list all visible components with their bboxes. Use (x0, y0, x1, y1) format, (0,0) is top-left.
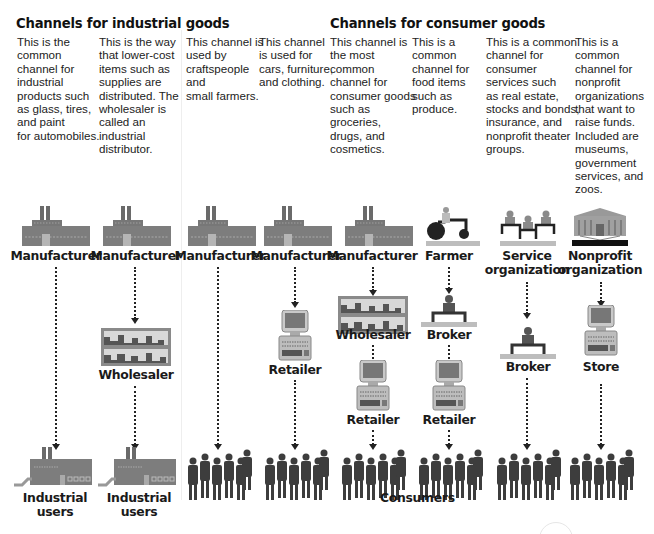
industrial-users-label: Industrial users (107, 491, 171, 519)
flow-arrow (600, 384, 602, 445)
channel-3-description: This channel is used by craftspeople and… (186, 35, 263, 102)
channel-6-description: This is a common channel for food items … (412, 35, 469, 115)
section-divider (181, 30, 182, 500)
wholesaler-label: Wholesaler (335, 328, 410, 342)
computer-icon (278, 310, 312, 362)
flow-arrow (55, 267, 57, 445)
retailer-label: Retailer (347, 413, 400, 427)
flow-arrow (294, 267, 296, 303)
factory-icon (264, 206, 332, 246)
channel-8-description: This is a common channel for nonprofit o… (575, 35, 644, 196)
consumer-section-title: Channels for consumer goods (330, 16, 545, 31)
industrial-section-title: Channels for industrial goods (16, 16, 230, 31)
consumers-crowd-icon (187, 449, 253, 501)
factory-icon (22, 206, 90, 246)
channel-4-description: This channel is used for cars, furniture… (259, 35, 333, 89)
computer-icon (356, 360, 390, 412)
consumers-crowd-icon (496, 449, 562, 501)
flow-arrow (372, 267, 374, 291)
consumers-crowd-icon (569, 449, 635, 501)
farmer-label: Farmer (425, 249, 473, 263)
consumers-label: Consumers (380, 490, 455, 505)
flow-arrow (448, 267, 450, 289)
channel-2-description: This is the way that lower-cost items su… (99, 35, 179, 156)
museum-building-icon (572, 206, 628, 246)
manufacturer-label: Manufacturer (326, 249, 417, 263)
flow-arrow (134, 386, 136, 445)
industrial-user-icon (14, 447, 94, 489)
flow-arrow (217, 267, 219, 445)
retailer-label: Retailer (269, 363, 322, 377)
flow-arrow (448, 430, 450, 445)
broker-icon (500, 326, 556, 360)
service-organization-label: Service organization (485, 249, 569, 277)
flow-arrow (600, 282, 602, 302)
faint-circle-mark (539, 522, 573, 534)
flow-arrow (294, 380, 296, 445)
farmer-tractor-icon (424, 206, 480, 246)
flow-arrow (526, 282, 528, 314)
flow-arrow (526, 378, 528, 445)
industrial-users-label: Industrial users (23, 491, 87, 519)
computer-icon (584, 305, 618, 357)
factory-icon (345, 206, 413, 246)
channel-7-description: This is a common channel for consumer se… (486, 35, 579, 156)
computer-icon (432, 360, 466, 412)
nonprofit-organization-label: Nonprofit organization (558, 249, 642, 277)
channel-5-description: This channel is the most common channel … (330, 35, 416, 156)
factory-icon (188, 206, 256, 246)
wholesaler-label: Wholesaler (98, 368, 173, 382)
broker-label: Broker (427, 328, 472, 342)
flow-arrow (134, 267, 136, 319)
industrial-user-icon (98, 447, 178, 489)
consumers-crowd-icon (264, 449, 330, 501)
flow-arrow (372, 430, 374, 445)
manufacturer-label: Manufacturer (90, 249, 181, 263)
factory-icon (103, 206, 171, 246)
broker-label: Broker (506, 360, 551, 374)
store-label: Store (583, 360, 619, 374)
channel-1-description: This is the common channel for industria… (17, 35, 100, 142)
service-organization-icon (498, 210, 558, 246)
manufacturer-label: Manufacturer (10, 249, 101, 263)
broker-icon (421, 294, 477, 328)
retailer-label: Retailer (423, 413, 476, 427)
warehouse-icon (101, 328, 171, 366)
